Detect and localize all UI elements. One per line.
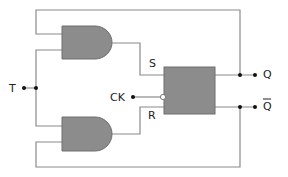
t-input-label: T	[9, 83, 16, 94]
t-terminal-dot	[22, 86, 26, 90]
r-wire	[112, 107, 164, 134]
t-flip-flop-diagram	[0, 0, 288, 177]
q-output-label: Q	[263, 69, 272, 80]
sr-flip-flop-box	[164, 67, 215, 114]
clock-inversion-bubble	[160, 94, 165, 99]
reset-input-label: R	[148, 110, 156, 121]
clock-input-label: CK	[110, 92, 125, 103]
q-junction-dot	[238, 73, 242, 77]
s-wire	[112, 43, 164, 75]
q-bar-output-label: Q	[263, 101, 272, 112]
clock-terminal-dot	[131, 95, 135, 99]
set-input-label: S	[149, 58, 156, 69]
qbar-terminal-dot	[253, 105, 257, 109]
q-terminal-dot	[253, 73, 257, 77]
and-gate-top	[62, 26, 112, 59]
t-junction-dot	[34, 86, 38, 90]
t-bus-wire	[36, 50, 62, 126]
and-gate-bottom	[62, 117, 112, 151]
qbar-junction-dot	[238, 105, 242, 109]
